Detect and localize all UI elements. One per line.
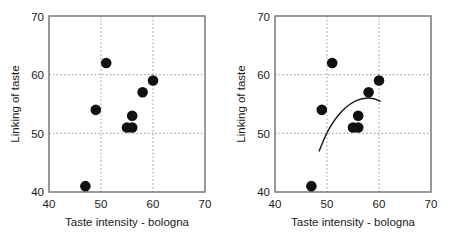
y-tick-label: 60 [31,69,44,81]
x-axis-title: Taste intensity - bologna [291,216,416,228]
data-point [353,122,364,133]
y-axis-title: Linking of taste [235,65,247,142]
right-x-tick-labels: 40 50 60 70 [269,198,438,210]
data-point [374,75,385,86]
data-point [80,181,91,192]
data-point [137,87,148,98]
y-tick-label: 50 [257,128,270,140]
data-point [127,122,138,133]
y-tick-label: 50 [31,128,44,140]
x-tick-label: 40 [269,198,282,210]
x-tick-label: 70 [199,198,212,210]
data-point [91,105,102,116]
right-plot-frame [275,16,431,192]
y-tick-label: 70 [31,11,44,23]
right-panel: 70 60 50 40 40 50 60 70 Taste intensity … [228,0,456,238]
x-tick-label: 60 [147,198,160,210]
left-gridlines [49,16,205,192]
x-tick-label: 40 [43,198,56,210]
data-point [363,87,374,98]
data-point [306,181,317,192]
data-point [327,58,338,69]
x-tick-label: 50 [95,198,108,210]
x-tick-label: 60 [373,198,386,210]
left-plot-frame [49,16,205,192]
left-x-tick-labels: 40 50 60 70 [43,198,212,210]
x-tick-label: 50 [321,198,334,210]
data-point [148,75,159,86]
right-y-tick-labels: 70 60 50 40 [257,11,270,199]
left-y-tick-labels: 70 60 50 40 [31,11,44,199]
data-point [317,105,328,116]
y-tick-label: 60 [257,69,270,81]
y-tick-label: 40 [31,186,44,198]
y-axis-title: Linking of taste [9,65,21,142]
right-gridlines [275,16,431,192]
data-point [127,110,138,121]
y-tick-label: 40 [257,186,270,198]
y-tick-label: 70 [257,11,270,23]
left-data-points [80,58,158,192]
x-tick-label: 70 [425,198,438,210]
scatter-plot-figure: 70 60 50 40 40 50 60 70 Taste intensity … [0,0,457,238]
data-point [353,110,364,121]
data-point [101,58,112,69]
right-data-points [306,58,384,192]
right-panel-svg: 70 60 50 40 40 50 60 70 Taste intensity … [228,0,457,238]
left-panel: 70 60 50 40 40 50 60 70 Taste intensity … [0,0,228,238]
left-panel-svg: 70 60 50 40 40 50 60 70 Taste intensity … [0,0,228,238]
x-axis-title: Taste intensity - bologna [65,216,190,228]
